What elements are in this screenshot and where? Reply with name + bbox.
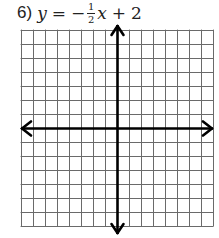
- coordinate-grid[interactable]: [0, 0, 219, 238]
- axes: [22, 26, 212, 233]
